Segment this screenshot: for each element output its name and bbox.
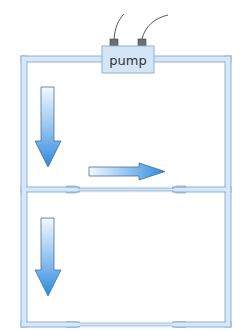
connector-left — [110, 39, 118, 46]
pump-label: pump — [109, 53, 146, 68]
arrow-down-icon — [35, 87, 61, 167]
connector-right — [138, 39, 146, 46]
wire-left — [114, 14, 124, 39]
pump-wires — [110, 14, 168, 46]
pump: pump — [102, 46, 154, 73]
wire-right — [142, 15, 168, 39]
arrow-down-icon — [35, 218, 61, 296]
arrow-right-icon — [89, 163, 165, 180]
pump-circulation-diagram: pump — [0, 0, 242, 331]
flow-arrow-right — [89, 163, 165, 180]
flow-arrow-down-lower — [35, 218, 61, 296]
flow-arrow-down-upper — [35, 87, 61, 167]
